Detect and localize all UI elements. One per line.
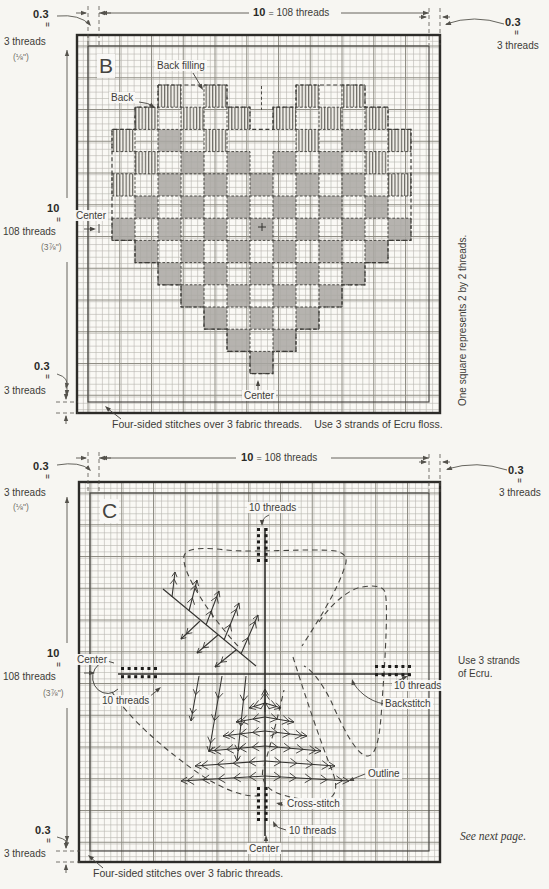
cross-stitch-dot: [265, 812, 268, 815]
four-sided-stitch-block: [319, 285, 342, 307]
four-sided-stitch-block: [227, 196, 250, 218]
cross-stitch-dot: [128, 667, 131, 670]
four-sided-stitch-block: [181, 240, 204, 262]
cross-stitch-dot: [257, 793, 260, 796]
center-left-label-c: Center: [75, 654, 109, 665]
back-filling-block: [135, 152, 158, 174]
cross-stitch-dot: [257, 818, 260, 821]
four-sided-stitch-block: [273, 285, 296, 307]
four-sided-stitch-block: [181, 285, 204, 307]
cross-stitch-dot: [141, 667, 144, 670]
pattern-page: 10 = 108 threads 0.3 = 3 threads (⅛") 0.…: [0, 0, 549, 889]
chart-b-caption: Four-sided stitches over 3 fabric thread…: [112, 419, 443, 431]
side-dim-threads-b: 108 threads: [3, 226, 56, 237]
margin-value-b-tl: 0.3: [33, 8, 49, 20]
cross-stitch-dot: [147, 667, 150, 670]
four-sided-stitch-block: [158, 174, 181, 196]
four-sided-stitch-block: [204, 263, 227, 285]
four-sided-stitch-block: [365, 196, 388, 218]
cross-stitch-dot: [257, 553, 260, 556]
margin-inches-c-tl: (⅛"): [13, 503, 29, 513]
margin-threads-b-tl: 3 threads: [4, 36, 46, 47]
cross-stitch-dot: [265, 559, 268, 562]
back-filling-block: [204, 85, 227, 107]
margin-threads-c-tl: 3 threads: [4, 487, 46, 498]
center-left-label-b: Center: [74, 210, 108, 221]
cross-stitch-dot: [257, 812, 260, 815]
margin-value-c-tr: 0.3: [508, 464, 524, 476]
four-sided-stitch-block: [319, 240, 342, 262]
cross-stitch-dot: [121, 675, 124, 678]
margin-threads-b-tr: 3 threads: [497, 40, 539, 51]
cross-stitch-dot: [401, 665, 404, 668]
back-filling-block: [273, 107, 296, 129]
equals-sign: =: [268, 8, 273, 18]
equals-sign: =: [256, 453, 261, 463]
back-filling-block: [135, 107, 158, 129]
threads-top-label: 10 threads: [247, 502, 298, 513]
equals-symbol: =: [43, 838, 52, 843]
cross-stitch-dot: [395, 665, 398, 668]
cross-stitch-dot: [257, 806, 260, 809]
cross-stitch-dot: [121, 667, 124, 670]
four-sided-stitch-block: [319, 152, 342, 174]
cross-stitch-dot: [265, 806, 268, 809]
back-label: Back: [109, 92, 135, 103]
cross-stitch-dot: [257, 528, 260, 531]
equals-symbol: =: [514, 478, 523, 483]
four-sided-stitch-block: [342, 263, 365, 285]
back-filling-block: [204, 129, 227, 151]
chart-c-caption: Four-sided stitches over 3 fabric thread…: [93, 868, 283, 880]
four-sided-stitch-block: [250, 307, 273, 329]
equals-symbol: =: [511, 30, 520, 35]
cross-stitch-dot: [128, 675, 131, 678]
square-note-vertical: One square represents 2 by 2 threads.: [457, 235, 468, 406]
cross-stitch-dot: [408, 673, 411, 676]
cross-stitch-dot: [147, 675, 150, 678]
back-filling-block: [181, 107, 204, 129]
back-filling-block: [319, 107, 342, 129]
four-sided-stitch-block: [158, 263, 181, 285]
equals-symbol: =: [42, 474, 51, 479]
see-next-page-note: See next page.: [460, 830, 526, 843]
cross-stitch-dot: [375, 673, 378, 676]
cross-stitch-dot: [257, 559, 260, 562]
pattern-artwork: [0, 0, 549, 889]
four-sided-stitch-block: [296, 174, 319, 196]
four-sided-stitch-block: [250, 263, 273, 285]
cross-stitch-dot: [382, 665, 385, 668]
four-sided-stitch-block: [112, 218, 135, 240]
backstitch-label: Backstitch: [383, 698, 433, 709]
outline-label: Outline: [366, 768, 402, 779]
cross-stitch-dot: [257, 799, 260, 802]
cross-stitch-dot: [388, 673, 391, 676]
margin-threads-c-tr: 3 threads: [499, 487, 541, 498]
four-sided-stitch-block: [273, 240, 296, 262]
cross-stitch-dot: [134, 675, 137, 678]
caption-stitches: Four-sided stitches over 3 fabric thread…: [112, 418, 302, 430]
cross-stitch-dot: [265, 799, 268, 802]
cross-stitch-dot: [134, 667, 137, 670]
back-filling-block: [388, 129, 411, 151]
four-sided-stitch-block: [273, 196, 296, 218]
four-sided-stitch-block: [342, 174, 365, 196]
cross-stitch-dot: [257, 547, 260, 550]
dimension-top-b: 10 = 108 threads: [250, 6, 332, 18]
equals-symbol: =: [42, 374, 51, 379]
equals-symbol: =: [53, 662, 62, 667]
four-sided-stitch-block: [273, 329, 296, 351]
dim-unit: 108 threads: [276, 7, 329, 18]
cross-stitch-dot: [265, 787, 268, 790]
cross-stitch-dot: [265, 553, 268, 556]
four-sided-stitch-block: [319, 196, 342, 218]
four-sided-stitch-block: [204, 218, 227, 240]
four-sided-stitch-block: [342, 129, 365, 151]
cross-stitch-dot: [388, 665, 391, 668]
cross-stitch-dot: [257, 540, 260, 543]
four-sided-stitch-block: [296, 307, 319, 329]
cross-stitch-dot: [395, 673, 398, 676]
four-sided-stitch-block: [227, 240, 250, 262]
four-sided-stitch-block: [273, 152, 296, 174]
strands-note-line2: of Ecru.: [458, 668, 492, 679]
margin-value-b-bl: 0.3: [34, 360, 50, 372]
